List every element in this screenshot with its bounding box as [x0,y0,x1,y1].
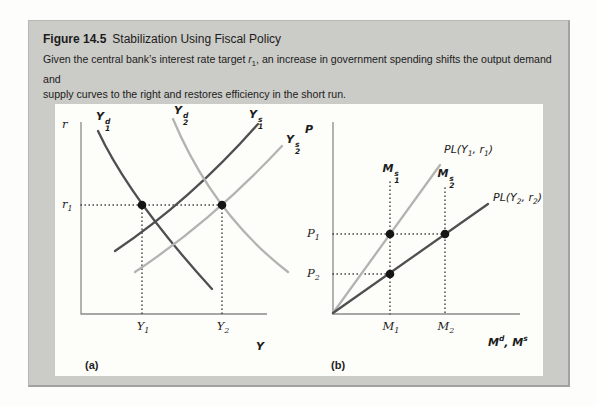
curve-label-y2d: Yd2 [174,104,188,126]
figure-number: Figure 14.5 [43,32,106,46]
figure-header: Figure 14.5Stabilization Using Fiscal Po… [29,21,568,103]
tick-P1: P1 [307,226,320,242]
curve-label-y2s: Ys2 [286,133,300,155]
label-m1s: Ms1 [382,162,399,184]
caption-line-1: Given the central bank’s interest rate t… [43,52,552,87]
panel-b-tag: (b) [331,359,345,371]
figure-title: Stabilization Using Fiscal Policy [112,32,281,46]
dotted-guides [81,182,445,314]
tick-Y2: Y2 [217,319,230,335]
panel-a-y-axis-label: r [62,117,68,131]
figure-title-row: Figure 14.5Stabilization Using Fiscal Po… [43,32,552,46]
pl-y2r2-label: PL(Y2, r2) [493,191,542,206]
y1s-curve [115,124,258,251]
panel-a-x-axis-label: Y [256,340,264,353]
dot-M2-P1 [441,230,450,239]
dot-Y2-r1 [218,201,227,210]
curve-label-y1s: Ys1 [249,108,263,130]
y2s-curve [135,146,282,272]
caption-line-2: supply curves to the right and restores … [43,87,552,103]
curve-label-y1d: Yd1 [96,110,110,132]
dot-M1-P1 [386,230,395,239]
pl-y2r2-line [333,204,488,313]
pl-y1r1-line [333,165,440,313]
equilibrium-dots [138,201,450,279]
y1d-curve [98,131,212,289]
panel-b-x-axis-label: Md, Ms [488,334,528,349]
pl-y1r1-label: PL(Y1, r1) [444,143,493,158]
tick-M1: M1 [383,319,400,335]
tick-M2: M2 [438,319,455,335]
dot-M1-P2 [386,270,395,279]
tick-Y1: Y1 [137,319,150,335]
figure-panel: Figure 14.5Stabilization Using Fiscal Po… [28,20,570,387]
figure-caption: Given the central bank’s interest rate t… [43,52,552,103]
panel-b-y-axis-label: P [305,123,313,136]
chart-area: r Yd1 Yd2 Ys1 Ys2 r1 Y1 Y2 Y (a) P PL(Y1… [55,104,543,376]
tick-r1: r1 [62,197,73,213]
tick-P2: P2 [307,266,320,282]
panel-a-tag: (a) [85,359,98,371]
page: Figure 14.5Stabilization Using Fiscal Po… [0,0,597,406]
dot-Y1-r1 [138,201,147,210]
label-m2s: Ms2 [437,167,454,189]
